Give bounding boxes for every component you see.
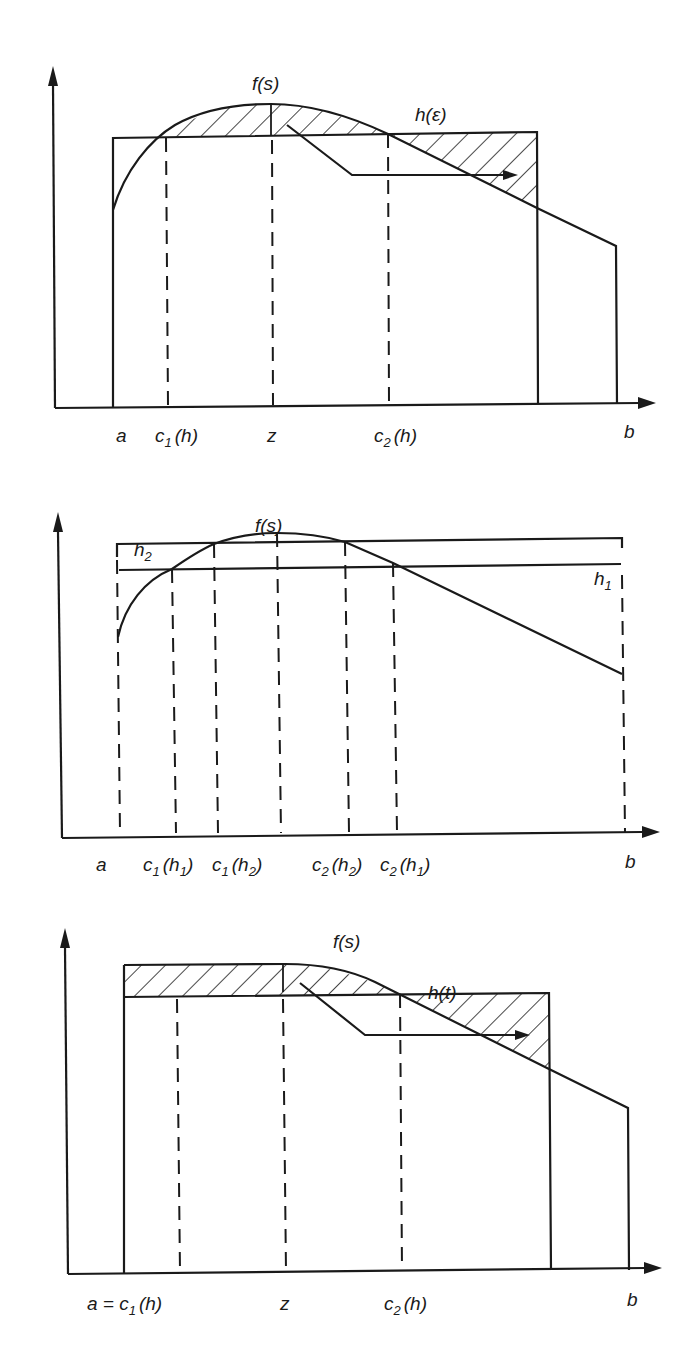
level-h1 [119, 564, 621, 570]
axis-label-z: z [266, 425, 277, 446]
x-axis [68, 1268, 645, 1274]
axis-label-b: b [624, 421, 635, 442]
axis-label-b: b [627, 1289, 638, 1310]
x-axis [62, 832, 642, 838]
label-f: f(s) [255, 515, 282, 536]
panel-1: f(s) h(ε) a c1(h) z c2(h) b [48, 66, 656, 450]
dashed-line-c1 [177, 999, 180, 1272]
y-axis-arrow-icon [60, 928, 70, 948]
y-axis-arrow-icon [53, 512, 63, 532]
axis-label-c1-h2: c1(h2) [212, 854, 262, 879]
y-axis [58, 532, 62, 838]
dashed-line-c1 [166, 138, 168, 405]
axis-label-a: a [96, 854, 107, 875]
x-axis-arrow-icon [642, 826, 660, 838]
panel-3: f(s) h(t) a = c1(h) z c2(h) b [60, 928, 662, 1318]
axis-label-a: a [116, 425, 127, 446]
axis-label-c2: c2(h) [384, 1293, 427, 1318]
y-axis [53, 84, 55, 408]
y-axis-arrow-icon [48, 66, 58, 86]
label-f: f(s) [333, 931, 360, 952]
curve-f [118, 533, 622, 674]
dashed-line-c2-h2 [345, 542, 349, 833]
curve-f [124, 964, 629, 1270]
y-axis [65, 948, 68, 1274]
figure-canvas: f(s) h(ε) a c1(h) z c2(h) b f(s) h2 h1 a… [0, 0, 689, 1348]
label-h-t: h(t) [428, 982, 457, 1003]
x-axis-arrow-icon [644, 1262, 662, 1274]
axis-label-c2-h2: c2(h2) [312, 854, 362, 879]
dashed-line-c1-h1 [172, 569, 176, 833]
label-h-epsilon: h(ε) [415, 104, 447, 125]
axis-label-b: b [625, 851, 636, 872]
dashed-line-z [272, 140, 273, 405]
axis-label-c2: c2(h) [374, 425, 417, 450]
dashed-line-z [277, 533, 281, 833]
x-axis [55, 403, 640, 408]
dashed-line-b [622, 575, 625, 832]
panel-2: f(s) h2 h1 a c1(h1) c1(h2) c2(h2) c2(h1)… [53, 512, 660, 879]
axis-label-a-equals-c1: a = c1(h) [87, 1293, 162, 1318]
dashed-line-c2-h1 [393, 563, 397, 832]
axis-label-c1: c1(h) [155, 425, 198, 450]
label-f: f(s) [252, 73, 279, 94]
axis-label-z: z [279, 1293, 290, 1314]
label-h1: h1 [594, 568, 612, 593]
dashed-line-z [283, 999, 286, 1271]
dashed-line-a [117, 560, 120, 833]
x-axis-arrow-icon [638, 397, 656, 409]
dashed-line-c1-h2 [214, 544, 218, 833]
axis-label-c1-h1: c1(h1) [143, 854, 193, 879]
axis-label-c2-h1: c2(h1) [380, 854, 430, 879]
curve-f [113, 104, 617, 404]
